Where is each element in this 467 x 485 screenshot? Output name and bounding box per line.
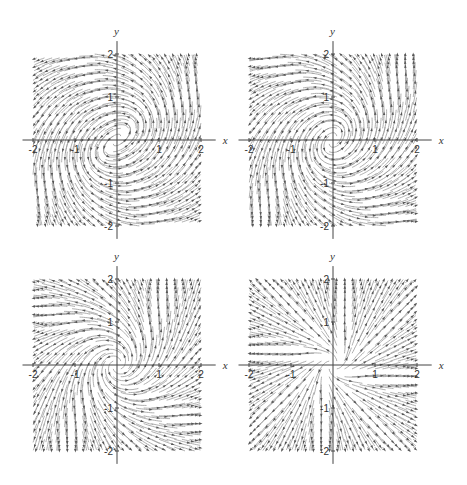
y-tick-label: -1 [320, 403, 329, 414]
x-tick-label: -1 [71, 369, 80, 380]
x-tick-label: -1 [71, 144, 80, 155]
y-tick-label: -1 [104, 403, 113, 414]
x-tick-label: 2 [414, 369, 420, 380]
x-tick-label: -2 [245, 369, 254, 380]
x-axis-label: x [438, 359, 444, 371]
x-tick-label: 1 [372, 144, 378, 155]
y-tick-label: -2 [320, 446, 329, 457]
y-tick-label: -1 [320, 178, 329, 189]
x-tick-label: 2 [198, 144, 204, 155]
y-tick-label: 2 [323, 49, 329, 60]
stream-plot-3: -2-112-2-112xy [0, 242, 234, 485]
y-axis-label: y [329, 250, 335, 262]
x-tick-label: -2 [245, 144, 254, 155]
y-tick-label: 1 [323, 317, 329, 328]
x-tick-label: -1 [287, 144, 296, 155]
y-tick-label: -1 [104, 178, 113, 189]
y-tick-label: 1 [107, 317, 113, 328]
x-tick-label: 2 [198, 369, 204, 380]
stream-plot-1: -2-112-2-112xy [0, 0, 234, 243]
x-axis-label: x [222, 134, 228, 146]
x-axis-label: x [222, 359, 228, 371]
y-axis-label: y [329, 25, 335, 37]
x-axis-label: x [438, 134, 444, 146]
x-tick-label: -2 [29, 144, 38, 155]
x-tick-label: -1 [287, 369, 296, 380]
x-tick-label: 1 [156, 369, 162, 380]
y-tick-label: 2 [323, 274, 329, 285]
y-tick-label: 2 [107, 49, 113, 60]
x-tick-label: 1 [156, 144, 162, 155]
y-tick-label: 1 [323, 92, 329, 103]
y-tick-label: 2 [107, 274, 113, 285]
y-tick-label: 1 [107, 92, 113, 103]
x-tick-label: 1 [372, 369, 378, 380]
y-axis-label: y [113, 250, 119, 262]
y-tick-label: -2 [320, 221, 329, 232]
y-tick-label: -2 [104, 221, 113, 232]
y-axis-label: y [113, 25, 119, 37]
x-tick-label: 2 [414, 144, 420, 155]
y-tick-label: -2 [104, 446, 113, 457]
stream-plot-4: -2-112-2-112xy [233, 242, 467, 485]
x-tick-label: -2 [29, 369, 38, 380]
stream-plot-2: -2-112-2-112xy [233, 0, 467, 243]
